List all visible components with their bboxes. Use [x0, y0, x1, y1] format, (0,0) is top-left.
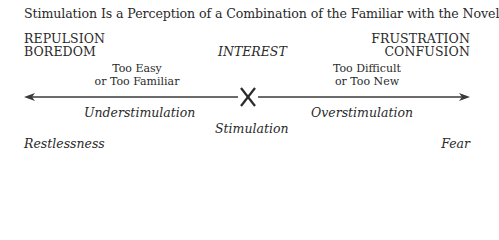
label-understimulation: Understimulation: [84, 107, 195, 120]
center-x-marker-icon: [241, 88, 255, 106]
label-stimulation: Stimulation: [215, 123, 289, 136]
label-overstimulation: Overstimulation: [311, 107, 413, 120]
label-restlessness: Restlessness: [24, 138, 105, 151]
label-fear: Fear: [441, 138, 470, 151]
